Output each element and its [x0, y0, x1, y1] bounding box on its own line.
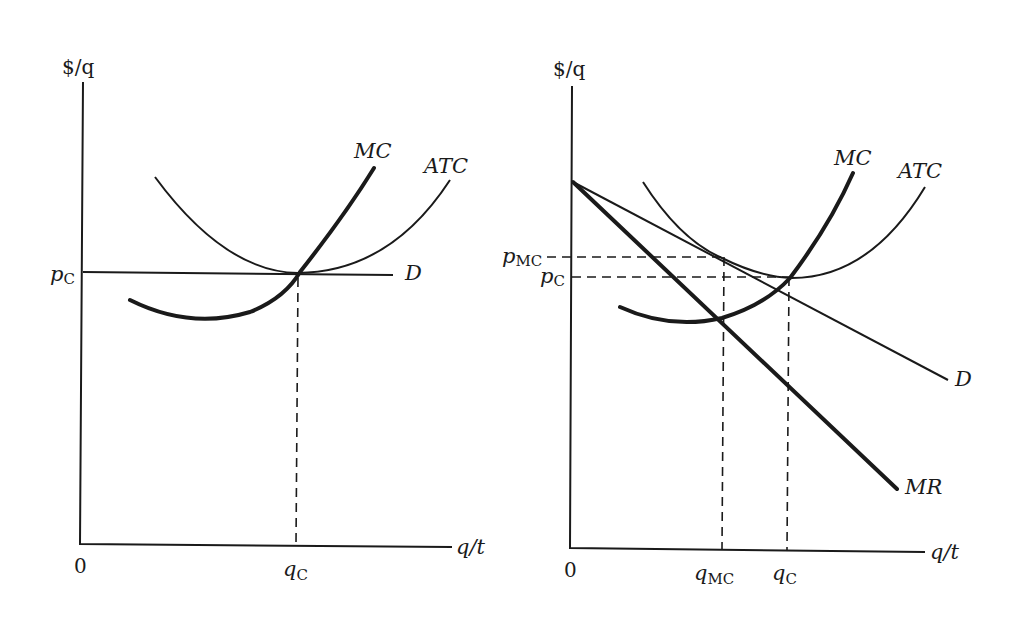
left-mc-label: MC [353, 139, 392, 163]
right-chart: $/q q/t 0 D MR ATC MC pMC pC qMC qC [502, 57, 972, 588]
right-mc-label: MC [833, 146, 872, 170]
left-chart: $/q q/t 0 D ATC MC pC qC [50, 55, 486, 584]
left-atc-label: ATC [422, 154, 468, 178]
right-atc-curve [643, 182, 925, 278]
right-mc-curve [620, 173, 853, 322]
right-qc-guide [787, 277, 789, 550]
right-qc-label: qC [772, 561, 797, 588]
left-atc-curve [155, 177, 450, 273]
left-axes [80, 82, 452, 547]
right-qmc-guide [722, 257, 724, 549]
right-x-axis-label: q/t [930, 540, 960, 564]
right-mr-curve [573, 182, 897, 489]
figure-canvas: $/q q/t 0 D ATC MC pC qC $/q q/t 0 D [0, 0, 1030, 620]
right-axes [570, 86, 925, 552]
right-mr-label: MR [904, 475, 943, 499]
left-y-axis-label: $/q [62, 55, 94, 79]
right-demand-label: D [954, 367, 972, 391]
right-demand-curve [573, 182, 948, 380]
right-origin-label: 0 [564, 558, 577, 582]
left-x-axis-label: q/t [456, 535, 486, 559]
left-demand-curve [83, 272, 393, 275]
right-atc-label: ATC [896, 159, 942, 183]
left-demand-label: D [404, 261, 422, 285]
left-qc-guide [296, 278, 298, 545]
right-pmc-label: pMC [502, 244, 542, 270]
right-pc-label: pC [540, 264, 565, 290]
left-qc-label: qC [283, 557, 308, 584]
left-origin-label: 0 [74, 554, 87, 578]
right-y-axis-label: $/q [553, 57, 585, 81]
left-pc-label: pC [50, 262, 75, 288]
right-qmc-label: qMC [694, 561, 734, 588]
